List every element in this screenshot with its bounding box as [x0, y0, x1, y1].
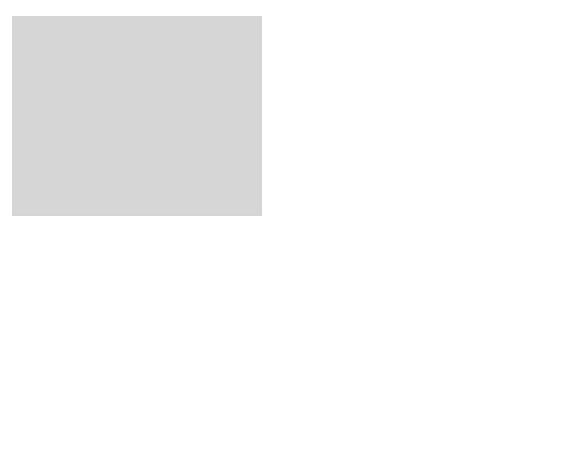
regional-map — [0, 0, 569, 451]
